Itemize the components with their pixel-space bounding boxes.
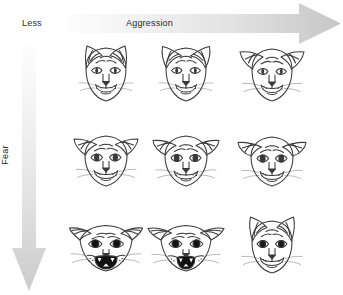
cat-emotion-figure <box>0 0 343 295</box>
axis-label-fear: Fear <box>0 145 10 164</box>
axis-label-less: Less <box>22 18 42 28</box>
axis-label-aggression: Aggression <box>126 18 173 28</box>
